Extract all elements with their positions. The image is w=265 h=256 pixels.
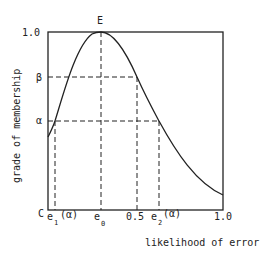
x-axis-label: likelihood of error — [145, 237, 259, 248]
peak-label: E — [97, 15, 103, 26]
membership-curve — [48, 32, 223, 195]
guide-lines — [48, 32, 159, 210]
x-tick-e2-sub: 2 — [158, 219, 162, 227]
y-tick-1: 1.0 — [22, 27, 40, 38]
x-tick-e0: e — [94, 211, 100, 222]
x-tick-e1: e — [47, 211, 53, 222]
x-tick-e2-arg: (α) — [163, 208, 181, 219]
x-tick-e2: e — [151, 211, 157, 222]
x-tick-e1-arg: (α) — [60, 209, 78, 220]
x-tick-e1-sub: 1 — [54, 219, 58, 227]
y-tick-beta: β — [36, 72, 42, 83]
x-tick-e0-sub: 0 — [101, 220, 105, 228]
x-tick-1: 1.0 — [214, 211, 232, 222]
x-tick-half: 0.5 — [126, 211, 144, 222]
y-tick-alpha: α — [36, 115, 42, 126]
membership-function-diagram: E 1.0 β α C e 1 (α) e 0 0.5 e 2 (α) 1.0 … — [0, 0, 265, 256]
y-axis-label: grade of membership — [11, 69, 22, 183]
origin-label: C — [38, 208, 44, 219]
